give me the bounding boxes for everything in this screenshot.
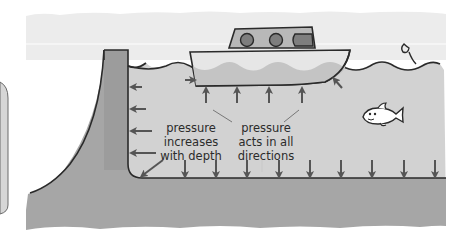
label-line: pressure: [228, 121, 304, 135]
label-line: directions: [228, 149, 304, 163]
boat-window-2: [270, 34, 283, 47]
pressure-diagram: pressure increases with depth pressure a…: [0, 0, 469, 241]
label-pressure-acts-in-all-directions: pressure acts in all directions: [228, 121, 304, 163]
label-line: pressure: [160, 121, 222, 135]
left-panel-edge: [0, 82, 8, 214]
label-pressure-increases-with-depth: pressure increases with depth: [160, 121, 222, 163]
label-line: increases: [160, 135, 222, 149]
container-wall: [104, 50, 128, 170]
boat-window-3: [293, 34, 313, 46]
boat-window-1: [241, 34, 254, 47]
label-line: with depth: [160, 149, 222, 163]
label-line: acts in all: [228, 135, 304, 149]
